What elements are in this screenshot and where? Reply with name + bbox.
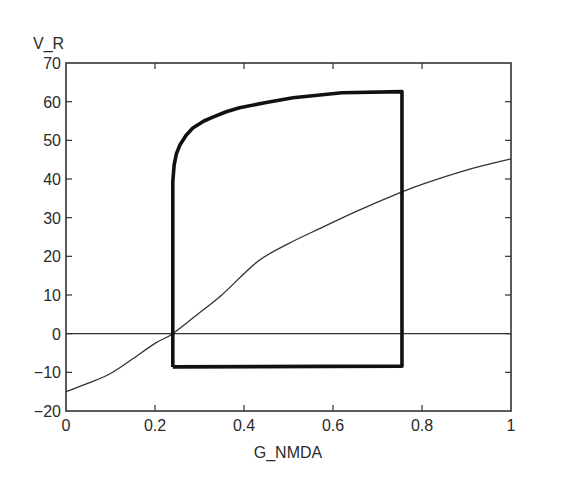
- tick-labels: 00.20.40.60.81−20−10010203040506070: [34, 55, 516, 434]
- y-tick-label: 0: [52, 326, 61, 343]
- y-tick-label: 50: [43, 132, 61, 149]
- y-tick-label: 20: [43, 248, 61, 265]
- x-axis-label: G_NMDA: [254, 444, 323, 462]
- y-tick-label: 60: [43, 94, 61, 111]
- x-tick-label: 0.8: [411, 417, 433, 434]
- chart-svg: 00.20.40.60.81−20−10010203040506070 V_R …: [0, 0, 575, 489]
- nullcline-line: [66, 159, 511, 392]
- x-tick-label: 0.2: [144, 417, 166, 434]
- y-tick-label: 30: [43, 210, 61, 227]
- y-tick-label: −20: [34, 403, 61, 420]
- series-layer: [66, 92, 511, 392]
- y-tick-label: 70: [43, 55, 61, 72]
- x-tick-label: 0: [62, 417, 71, 434]
- y-tick-label: 40: [43, 171, 61, 188]
- y-tick-label: −10: [34, 364, 61, 381]
- x-tick-label: 0.6: [322, 417, 344, 434]
- hysteresis-loop-line: [173, 92, 402, 367]
- y-axis-label: V_R: [33, 35, 64, 53]
- x-tick-label: 0.4: [233, 417, 255, 434]
- x-tick-label: 1: [507, 417, 516, 434]
- y-tick-label: 10: [43, 287, 61, 304]
